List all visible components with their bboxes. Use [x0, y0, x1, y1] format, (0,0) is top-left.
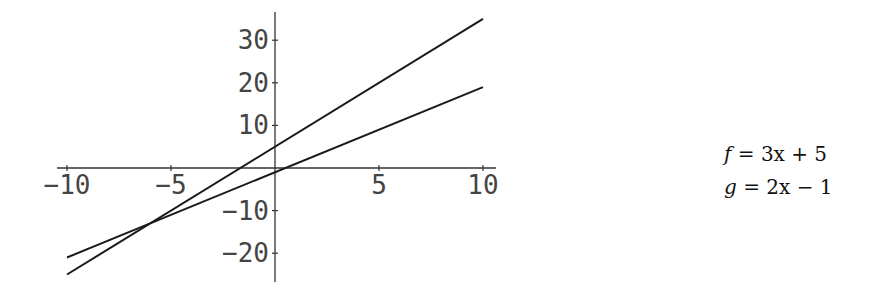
g-symbol: g	[724, 175, 737, 199]
y-tick-label: −10	[222, 196, 269, 226]
f-expression: = 3x + 5	[738, 142, 827, 166]
x-tick-label: 10	[467, 170, 498, 200]
y-tick-label: 30	[238, 25, 269, 55]
x-tick-label: 5	[371, 170, 387, 200]
y-tick-label: 20	[238, 68, 269, 98]
legend-entry-g: g = 2x − 1	[724, 171, 833, 204]
legend-entry-f: f = 3x + 5	[724, 138, 833, 171]
x-tick-label: −5	[155, 170, 186, 200]
equation-legend: f = 3x + 5 g = 2x − 1	[724, 138, 833, 204]
f-symbol: f	[724, 142, 731, 166]
x-tick-label: −10	[44, 170, 91, 200]
g-expression: = 2x − 1	[743, 175, 832, 199]
y-tick-label: −20	[222, 238, 269, 268]
y-tick-label: 10	[238, 110, 269, 140]
